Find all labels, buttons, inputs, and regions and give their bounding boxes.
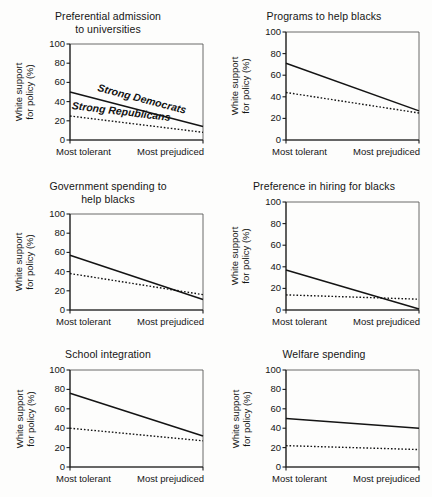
plot-area [0,170,216,340]
chart-panel: Welfare spendingWhite supportfor policy … [216,340,432,497]
plot-area [216,340,432,497]
plot-frame [286,32,419,140]
plot-frame [70,370,203,467]
plot-frame [286,370,419,467]
figure-small-multiples: Preferential admissionto universitiesWhi… [0,0,432,497]
series-line-republicans [286,295,419,299]
axis-lines [70,370,203,467]
axis-lines [286,370,419,467]
series-line-democrats [70,393,203,436]
plot-area [216,170,432,340]
chart-panel: Programs to help blacksWhite supportfor … [216,0,432,170]
plot-area [216,0,432,170]
chart-panel: School integrationWhite supportfor polic… [0,340,216,497]
series-line-democrats [286,63,419,111]
chart-panel: Preferential admissionto universitiesWhi… [0,0,216,170]
plot-area [0,340,216,497]
chart-panel: Preference in hiring for blacksWhite sup… [216,170,432,340]
series-line-democrats [70,255,203,299]
series-line-republicans [286,446,419,450]
axis-lines [286,32,419,140]
series-line-republicans [286,92,419,113]
chart-panel: Government spending tohelp blacksWhite s… [0,170,216,340]
series-line-democrats [286,419,419,429]
series-line-democrats [286,270,419,309]
axis-lines [286,202,419,310]
plot-frame [286,202,419,310]
